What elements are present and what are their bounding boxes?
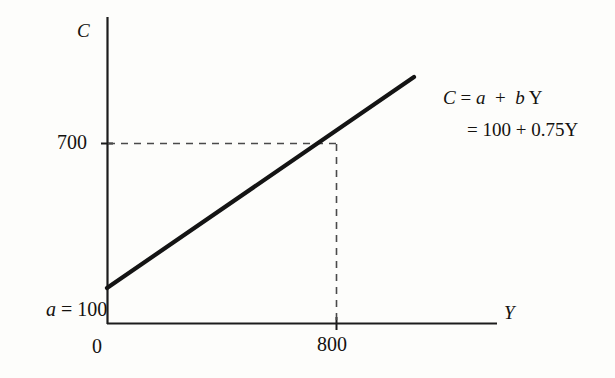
y-tick-label-700: 700: [57, 132, 87, 152]
consumption-function-figure: C Y 700 a = 100 0 800 C = a + b Y = 100 …: [0, 0, 615, 378]
x-axis-label: Y: [504, 303, 515, 322]
equation-equals-2: =: [467, 119, 478, 140]
equation-plus-2: +: [516, 119, 527, 140]
intercept-value: 100: [77, 298, 107, 320]
y-axis-label: C: [77, 21, 90, 40]
equation-line-2: = 100 + 0.75Y: [448, 101, 578, 158]
equation-variable-2: Y: [564, 119, 578, 140]
intercept-label: a = 100: [26, 279, 107, 339]
intercept-equals: =: [61, 298, 72, 320]
equation-slope-value: 0.75: [531, 119, 564, 140]
consumption-function-line: [107, 77, 414, 288]
intercept-symbol: a: [46, 298, 56, 320]
origin-label: 0: [92, 336, 102, 356]
equation-intercept-value: 100: [482, 119, 511, 140]
x-tick-label-800: 800: [317, 334, 347, 354]
